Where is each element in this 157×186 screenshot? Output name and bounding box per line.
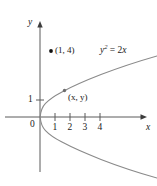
y-tick-label-1: 1: [28, 95, 33, 105]
y-axis: [37, 21, 42, 172]
point-label-1-4: (1, 4): [55, 46, 75, 55]
x-axis: [5, 114, 147, 119]
x-tick-label-2: 2: [68, 123, 73, 133]
y-axis-label: y: [28, 18, 32, 28]
equation-rest: = 2x: [107, 45, 126, 55]
origin-label: 0: [30, 120, 35, 130]
x-tick-label-4: 4: [98, 123, 103, 133]
parabola-upper-branch: [40, 56, 157, 117]
point-label-x-y: (x, y): [68, 93, 88, 102]
x-tick-label-3: 3: [83, 123, 88, 133]
parabola-figure: y x 0 1 1 2 3 4 (1, 4) (x, y) y2 = 2x: [0, 0, 157, 186]
equation-label: y2 = 2x: [100, 44, 127, 56]
x-axis-label: x: [146, 123, 150, 133]
point-marker-1-4: [49, 49, 53, 53]
x-tick-label-1: 1: [53, 123, 58, 133]
point-marker-x-y: [63, 89, 66, 92]
